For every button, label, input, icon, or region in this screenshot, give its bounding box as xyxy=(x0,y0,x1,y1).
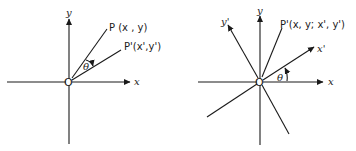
angle-theta-label: θ xyxy=(277,72,283,83)
angle-arc xyxy=(285,68,287,81)
ray-to-p-prime xyxy=(72,50,121,80)
x-axis-label: x xyxy=(134,76,140,87)
origin-label: O xyxy=(255,76,264,89)
y-prime-axis xyxy=(228,25,258,78)
y-prime-axis-negative xyxy=(262,85,289,134)
x-prime-axis-label: x' xyxy=(317,43,325,54)
rotation-diagrams: O x y P (x , y) P'(x',y') θ O x y x' y' … xyxy=(0,0,356,151)
angle-theta-label: θ xyxy=(83,61,89,72)
x-prime-axis xyxy=(263,47,314,80)
right-diagram: O x y x' y' P'(x, y; x', y') θ xyxy=(198,5,345,145)
y-axis-label: y xyxy=(256,5,263,16)
x-prime-axis-negative xyxy=(207,84,257,117)
point-p-prime-label: P'(x',y') xyxy=(124,41,161,52)
ray-to-p xyxy=(72,29,107,78)
point-label: P'(x, y; x', y') xyxy=(280,19,345,30)
y-axis-label: y xyxy=(65,7,72,18)
x-axis-label: x xyxy=(328,76,334,87)
left-diagram: O x y P (x , y) P'(x',y') θ xyxy=(7,7,161,144)
point-p-label: P (x , y) xyxy=(109,22,147,33)
y-prime-axis-label: y' xyxy=(220,16,229,27)
origin-label: O xyxy=(64,76,73,89)
